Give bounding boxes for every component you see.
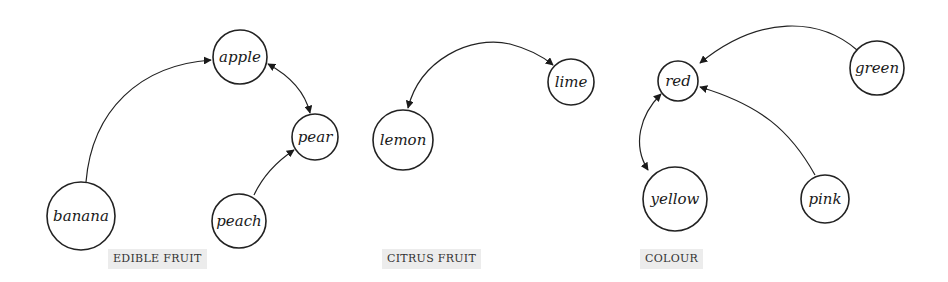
node-red[interactable]: red bbox=[658, 61, 698, 101]
edge-lemon-lime bbox=[408, 42, 553, 108]
node-pear[interactable]: pear bbox=[292, 114, 338, 160]
node-yellow[interactable]: yellow bbox=[643, 167, 707, 231]
node-label: green bbox=[855, 59, 899, 77]
node-peach[interactable]: peach bbox=[212, 194, 266, 248]
group-label-colour: COLOUR bbox=[640, 249, 703, 269]
node-label: banana bbox=[53, 207, 109, 225]
node-label: lemon bbox=[380, 131, 427, 149]
node-label: yellow bbox=[650, 190, 700, 208]
edge-green-red bbox=[700, 26, 857, 63]
node-lime[interactable]: lime bbox=[548, 59, 594, 105]
edge-pink-red bbox=[700, 87, 815, 175]
node-pink[interactable]: pink bbox=[801, 175, 849, 223]
node-label: apple bbox=[219, 48, 261, 66]
group-label-citrus-fruit: CITRUS FRUIT bbox=[382, 249, 481, 269]
edge-peach-pear bbox=[254, 150, 294, 195]
node-lemon[interactable]: lemon bbox=[373, 110, 433, 170]
diagram-canvas: apple pear banana peach lime lemon red bbox=[0, 0, 948, 282]
node-green[interactable]: green bbox=[850, 41, 904, 95]
node-label: pear bbox=[298, 128, 333, 146]
node-label: red bbox=[665, 72, 691, 90]
node-apple[interactable]: apple bbox=[213, 30, 267, 84]
node-label: lime bbox=[555, 73, 588, 91]
edge-apple-pear bbox=[268, 64, 310, 113]
node-label: pink bbox=[808, 190, 841, 208]
node-label: peach bbox=[216, 212, 261, 230]
group-label-edible-fruit: EDIBLE FRUIT bbox=[108, 249, 207, 269]
graph-svg: apple pear banana peach lime lemon red bbox=[0, 0, 948, 282]
node-banana[interactable]: banana bbox=[47, 182, 115, 250]
edge-red-yellow bbox=[640, 94, 661, 170]
edge-banana-apple bbox=[86, 60, 211, 182]
